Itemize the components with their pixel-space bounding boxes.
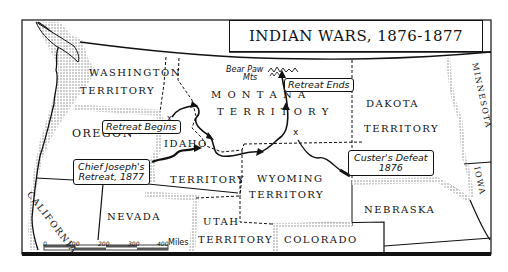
- scale-tick-300: 300: [128, 240, 139, 247]
- custer-line2: 1876: [354, 163, 428, 173]
- scale-tick-0: 0: [43, 240, 47, 247]
- callout-custers-defeat: Custer's Defeat 1876: [348, 150, 434, 176]
- map-title: INDIAN WARS, 1876-1877: [229, 20, 483, 52]
- label-wyoming-territory: TERRITORY: [249, 190, 324, 200]
- label-idaho-territory: TERRITORY: [170, 175, 245, 185]
- scale-tick-400: 400: [157, 240, 168, 247]
- label-colorado: COLORADO: [284, 235, 358, 245]
- label-montana-territory: T E R R I T O R Y: [217, 107, 330, 117]
- label-nebraska: NEBRASKA: [364, 205, 435, 215]
- scale-tick-200: 200: [98, 240, 109, 247]
- label-idaho: IDAHO: [164, 139, 208, 149]
- callout-retreat-begins: Retreat Begins: [102, 120, 181, 134]
- label-wyoming: WYOMING: [257, 174, 324, 184]
- chief-joseph-line2: Retreat, 1877: [78, 172, 145, 182]
- label-dakota-territory: TERRITORY: [364, 124, 439, 134]
- svg-text:x: x: [293, 127, 299, 137]
- scale-tick-100: 100: [68, 240, 79, 247]
- label-nevada: NEVADA: [107, 212, 161, 222]
- label-dakota: DAKOTA: [366, 99, 419, 109]
- callout-retreat-ends: Retreat Ends: [284, 78, 354, 92]
- callout-chief-joseph: Chief Joseph's Retreat, 1877: [73, 159, 150, 185]
- label-utah: UTAH: [203, 217, 240, 227]
- label-washington-territory: TERRITORY: [80, 86, 155, 96]
- label-utah-territory: TERRITORY: [198, 235, 273, 245]
- label-bear-paw-mts: Mts: [243, 74, 257, 82]
- scale-unit: Miles: [168, 238, 188, 247]
- label-washington: WASHINGTON: [89, 68, 181, 78]
